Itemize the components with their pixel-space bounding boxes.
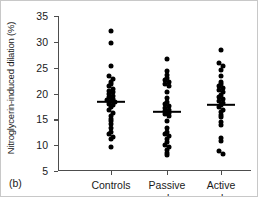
data-point xyxy=(109,144,114,149)
y-tick-label-10: 10 xyxy=(36,139,48,151)
data-point xyxy=(109,41,114,46)
data-point xyxy=(219,123,224,128)
y-tick-label-15: 15 xyxy=(36,113,48,125)
x-tick-active-smokers xyxy=(221,170,222,175)
figure-panel-b: Nitroglycerin-induced dilation (%) 51015… xyxy=(0,0,258,197)
data-point xyxy=(165,152,170,157)
y-tick-20: 20 xyxy=(54,94,58,95)
data-point xyxy=(165,119,170,124)
data-point xyxy=(167,83,172,88)
y-axis-label: Nitroglycerin-induced dilation (%) xyxy=(3,3,19,173)
data-point xyxy=(219,138,224,143)
data-point xyxy=(165,57,170,62)
data-point xyxy=(109,28,114,33)
x-axis-label-active-smokers: Activesmokers xyxy=(201,179,241,197)
y-tick-label-5: 5 xyxy=(42,165,48,177)
y-tick-10: 10 xyxy=(54,145,58,146)
y-axis-line xyxy=(58,16,59,171)
x-tick-controls xyxy=(111,170,112,175)
mean-line-active-smokers xyxy=(207,104,235,106)
y-tick-5: 5 xyxy=(54,171,58,172)
panel-label: (b) xyxy=(9,177,22,189)
data-point xyxy=(219,47,224,52)
x-axis-label-controls: Controls xyxy=(91,179,130,192)
data-point xyxy=(221,151,226,156)
data-point xyxy=(219,68,224,73)
data-point xyxy=(165,89,170,94)
y-tick-35: 35 xyxy=(54,16,58,17)
data-point xyxy=(109,63,114,68)
y-tick-label-25: 25 xyxy=(36,62,48,74)
y-tick-25: 25 xyxy=(54,68,58,69)
x-tick-passive-smokers xyxy=(167,170,168,175)
mean-line-passive-smokers xyxy=(153,111,181,113)
y-tick-label-35: 35 xyxy=(36,10,48,22)
y-tick-label-30: 30 xyxy=(36,36,48,48)
x-axis-label-passive-smokers: Passivesmokers xyxy=(147,179,187,197)
y-tick-30: 30 xyxy=(54,42,58,43)
data-point xyxy=(109,137,114,142)
y-tick-label-20: 20 xyxy=(36,88,48,100)
mean-line-controls xyxy=(97,101,125,103)
plot-area: 5101520253035 ControlsPassivesmokersActi… xyxy=(58,13,251,171)
y-tick-15: 15 xyxy=(54,119,58,120)
data-point xyxy=(219,73,224,78)
